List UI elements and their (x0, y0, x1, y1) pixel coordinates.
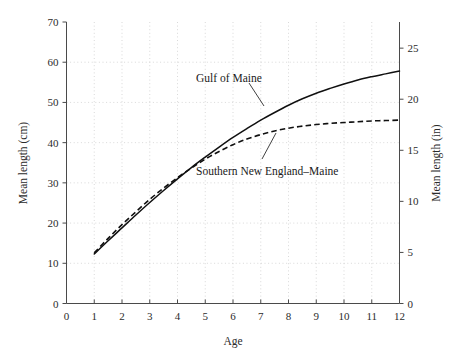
y-axis-title-left: Mean length (cm) (17, 122, 30, 205)
tick-label-y-left: 20 (48, 217, 60, 229)
tick-label-x: 5 (203, 310, 209, 322)
line-chart: 010203040506070 0510152025 0123456789101… (0, 0, 453, 361)
chart-figure: 010203040506070 0510152025 0123456789101… (0, 0, 453, 361)
tick-label-y-left: 70 (48, 16, 60, 28)
tick-label-y-right: 5 (408, 246, 414, 258)
tick-label-y-right: 10 (408, 195, 420, 207)
tick-label-x: 11 (366, 310, 377, 322)
tick-label-y-right: 25 (408, 42, 420, 54)
tick-label-x: 3 (147, 310, 153, 322)
tick-label-y-left: 40 (48, 137, 60, 149)
tick-label-x: 1 (92, 310, 98, 322)
tick-label-x: 10 (339, 310, 351, 322)
tick-label-y-left: 60 (48, 56, 60, 68)
tick-label-x: 0 (64, 310, 70, 322)
tick-label-x: 8 (286, 310, 292, 322)
series-label-gulf-of-maine: Gulf of Maine (196, 72, 262, 84)
tick-label-x: 6 (230, 310, 236, 322)
tick-label-y-left: 50 (48, 96, 60, 108)
tick-label-y-left: 30 (48, 177, 60, 189)
tick-label-y-right: 15 (408, 144, 420, 156)
tick-label-x: 9 (314, 310, 320, 322)
tick-label-y-left: 0 (53, 298, 59, 310)
tick-label-x: 7 (258, 310, 264, 322)
tick-label-y-left: 10 (48, 257, 60, 269)
tick-label-x: 2 (119, 310, 125, 322)
x-axis-title: Age (223, 335, 242, 348)
tick-label-y-right: 0 (408, 298, 414, 310)
y-axis-title-right: Mean length (in) (430, 124, 443, 201)
series-label-southern-new-england-maine: Southern New England–Maine (196, 165, 338, 178)
tick-label-y-right: 20 (408, 93, 420, 105)
chart-background (0, 0, 453, 361)
tick-label-x: 4 (175, 310, 181, 322)
tick-label-x: 12 (394, 310, 405, 322)
